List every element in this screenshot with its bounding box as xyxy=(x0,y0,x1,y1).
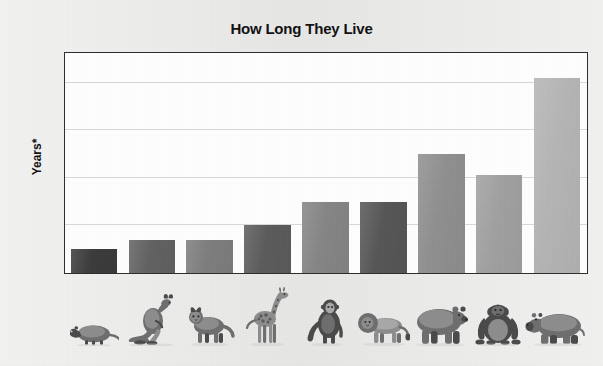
bar-sheen xyxy=(244,225,291,273)
bar-gorilla xyxy=(476,175,523,273)
plot-area: 010203040 xyxy=(64,52,588,274)
bar-giraffe xyxy=(244,225,291,273)
page-title: How Long They Live xyxy=(0,20,603,37)
gridline xyxy=(65,82,587,83)
animal-illustration-row xyxy=(64,276,588,358)
bar-sheen xyxy=(302,202,349,273)
giraffe-icon xyxy=(243,286,291,346)
bear-icon xyxy=(409,302,471,346)
chart-page: How Long They Live Years* 010203040 xyxy=(0,0,603,366)
bar-monkey xyxy=(302,202,349,273)
bar-kangaroo xyxy=(129,240,176,273)
monkey-icon xyxy=(303,298,347,346)
gridline xyxy=(65,129,587,130)
gorilla-icon xyxy=(475,300,521,346)
bar-opossum xyxy=(71,249,118,273)
bar-sheen xyxy=(476,175,523,273)
bar-sheen xyxy=(129,240,176,273)
opossum-icon xyxy=(67,320,119,346)
lion-icon xyxy=(354,310,410,346)
y-axis-label: Years* xyxy=(30,112,44,202)
kangaroo-icon xyxy=(126,294,176,346)
bar-sheen xyxy=(534,78,581,273)
hippopotamus-icon xyxy=(525,310,587,346)
lynx-icon xyxy=(183,306,235,346)
bar-sheen xyxy=(186,240,233,273)
bar-hippopotamus xyxy=(534,78,581,273)
bar-sheen xyxy=(360,202,407,273)
plot-inner xyxy=(65,53,587,273)
bar-sheen xyxy=(71,249,118,273)
bar-sheen xyxy=(418,154,465,273)
bar-bear xyxy=(418,154,465,273)
bar-lynx xyxy=(186,240,233,273)
bar-lion xyxy=(360,202,407,273)
